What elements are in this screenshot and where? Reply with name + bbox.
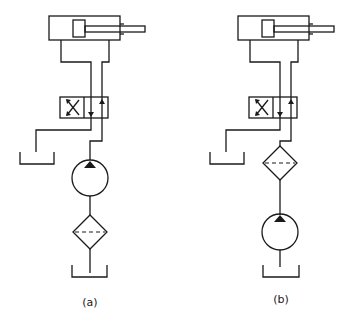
cap-end-line [61, 40, 91, 97]
circuit-b: (b) [210, 16, 334, 306]
label-b: (b) [273, 293, 289, 306]
label-a: (a) [82, 296, 97, 309]
pump-arrow-icon [84, 161, 96, 168]
pump-a [72, 160, 108, 196]
return-reservoir-a [20, 152, 54, 164]
filter-b [263, 146, 297, 180]
pressure-line [90, 118, 102, 160]
return-line [226, 118, 280, 152]
circuit-a: (a) [20, 16, 145, 309]
pump-b [262, 214, 298, 250]
arrow-down-icon [88, 112, 94, 117]
cylinder-a [49, 16, 145, 40]
arrow-down-icon [277, 112, 283, 117]
pump-arrow-icon [274, 215, 286, 222]
supply-reservoir-b [263, 265, 299, 277]
directional-valve-b [249, 97, 297, 118]
arrow-up-icon [288, 99, 294, 104]
arrow-up-icon [99, 99, 105, 104]
return-line [36, 118, 91, 152]
filter-a [73, 215, 107, 249]
directional-valve-a [60, 97, 108, 118]
return-reservoir-b [210, 152, 244, 164]
cylinder-rod [274, 26, 334, 32]
cylinder-rod [85, 26, 145, 32]
cylinder-piston [73, 20, 85, 37]
pressure-line [280, 118, 291, 146]
cylinder-piston [262, 20, 274, 37]
cylinder-b [238, 16, 334, 40]
rod-end-line [102, 40, 109, 97]
cap-end-line [250, 40, 280, 97]
rod-end-line [291, 40, 298, 97]
hydraulic-diagram: (a) [0, 0, 349, 322]
